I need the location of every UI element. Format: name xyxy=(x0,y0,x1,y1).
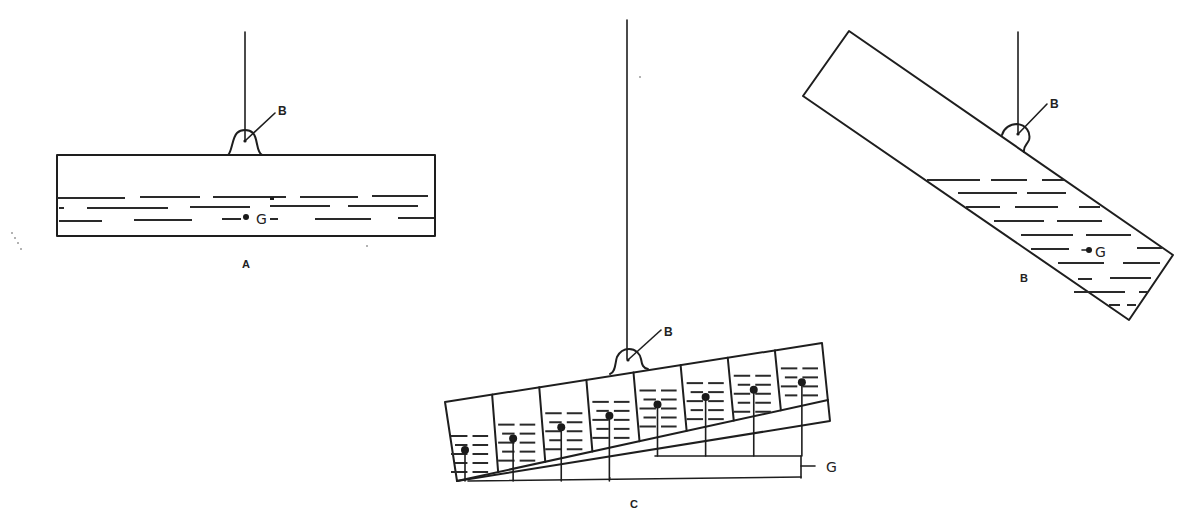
buoyancy-diagram: B G A B xyxy=(0,0,1183,516)
panel-a: B G A xyxy=(57,32,435,270)
panel-b-liquid xyxy=(927,180,1162,305)
panel-b-container xyxy=(803,31,1173,320)
panel-c-divider xyxy=(775,350,781,410)
scan-artifacts xyxy=(11,76,641,250)
panel-c-bracket-lower xyxy=(468,477,801,481)
panel-a-caption: A xyxy=(242,258,250,270)
panel-b-lug xyxy=(1002,124,1029,152)
panel-c-g-label: G xyxy=(826,459,837,475)
panel-a-g-label: G xyxy=(256,211,267,227)
panel-c-divider xyxy=(586,380,592,452)
panel-a-b-label: B xyxy=(278,104,287,118)
panel-a-b-leader xyxy=(246,113,275,140)
panel-a-g-point xyxy=(243,214,249,220)
panel-b-caption: B xyxy=(1020,272,1028,284)
panel-b: B G B xyxy=(803,31,1173,320)
panel-c-divider xyxy=(681,365,687,431)
panel-c-b-label: B xyxy=(664,325,673,339)
panel-b-g-point xyxy=(1086,247,1092,253)
panel-b-b-label: B xyxy=(1050,97,1059,111)
panel-c-b-leader xyxy=(629,330,661,359)
panel-c-divider xyxy=(634,373,640,442)
panel-c-g-points xyxy=(461,378,806,481)
panel-b-g-label: G xyxy=(1095,244,1106,260)
panel-c-divider xyxy=(539,387,545,461)
panel-c-divider xyxy=(728,358,734,421)
panel-c-divider xyxy=(492,395,498,472)
panel-c: B G C xyxy=(445,20,837,510)
panel-b-b-leader xyxy=(1019,104,1047,133)
panel-c-caption: C xyxy=(630,498,638,510)
